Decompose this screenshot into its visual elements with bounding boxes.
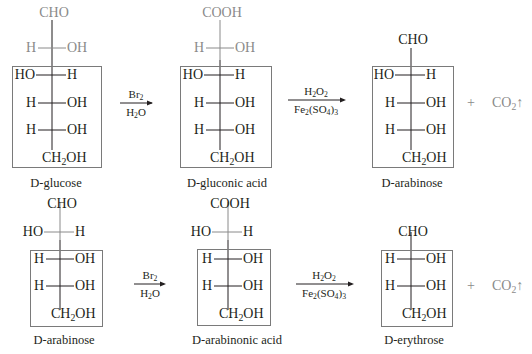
substituent-oh: OH — [243, 252, 263, 266]
substituent-oh: OH — [426, 252, 446, 266]
substituent-h: H — [235, 68, 245, 82]
substituent-h: H — [26, 123, 36, 137]
reagent-hydrogen-peroxide: H2O2 — [312, 270, 336, 281]
substituent-h: H — [67, 68, 77, 82]
substituent-h: H — [194, 96, 204, 110]
substituent-h: H — [202, 279, 212, 293]
aldehyde-group: CHO — [398, 33, 428, 47]
substituent-oh: OH — [426, 279, 446, 293]
substituent-h: H — [385, 123, 395, 137]
reagent-iron-sulfate: Fe2(SO4)3 — [302, 288, 346, 299]
molecule-label-d-erythrose: D-erythrose — [384, 334, 444, 347]
carboxyl-group: COOH — [210, 197, 250, 211]
carbon-dioxide-byproduct: CO2↑ — [492, 96, 523, 110]
reagent-bromine: Br2 — [143, 270, 158, 281]
substituent-h: H — [26, 41, 36, 55]
substituent-h: H — [34, 279, 44, 293]
substituent-oh: OH — [426, 123, 446, 137]
reagent-hydrogen-peroxide: H2O2 — [304, 86, 328, 97]
hydroxymethyl-group: CH2OH — [42, 151, 87, 165]
substituent-h: H — [34, 252, 44, 266]
molecule-label-d-glucose: D-glucose — [30, 177, 81, 190]
gas-evolution-arrow-icon: ↑ — [516, 95, 523, 110]
substituent-h: H — [202, 252, 212, 266]
molecule-label-d-arabinose: D-arabinose — [381, 177, 442, 190]
substituent-ho: HO — [15, 68, 35, 82]
molecule-label-d-arabinonic-acid: D-arabinonic acid — [192, 334, 282, 347]
reagent-water: H2O — [126, 107, 146, 118]
molecule-label-d-arabinose: D-arabinose — [33, 334, 94, 347]
reagent-iron-sulfate: Fe2(SO4)3 — [294, 104, 338, 115]
substituent-ho: HO — [191, 225, 211, 239]
substituent-h: H — [194, 41, 204, 55]
substituent-oh: OH — [235, 123, 255, 137]
substituent-oh: OH — [235, 41, 255, 55]
molecule-label-d-gluconic-acid: D-gluconic acid — [187, 177, 267, 190]
hydroxymethyl-group: CH2OH — [51, 307, 96, 321]
substituent-oh: OH — [426, 96, 446, 110]
substituent-oh: OH — [235, 96, 255, 110]
gas-evolution-arrow-icon: ↑ — [516, 278, 523, 293]
substituent-ho: HO — [23, 225, 43, 239]
substituent-oh: OH — [75, 279, 95, 293]
substituent-ho: HO — [374, 68, 394, 82]
aldehyde-group: CHO — [398, 225, 428, 239]
substituent-h: H — [385, 252, 395, 266]
aldehyde-group: CHO — [47, 197, 77, 211]
substituent-h: H — [26, 96, 36, 110]
hydroxymethyl-group: CH2OH — [402, 307, 447, 321]
plus-sign: + — [467, 279, 475, 293]
substituent-h: H — [426, 68, 436, 82]
carbon-dioxide-byproduct: CO2↑ — [492, 279, 523, 293]
substituent-oh: OH — [243, 279, 263, 293]
substituent-oh: OH — [67, 123, 87, 137]
reagent-water: H2O — [140, 288, 160, 299]
reagent-bromine: Br2 — [129, 89, 144, 100]
substituent-ho: HO — [183, 68, 203, 82]
substituent-h: H — [385, 279, 395, 293]
hydroxymethyl-group: CH2OH — [402, 151, 447, 165]
substituent-h: H — [75, 225, 85, 239]
substituent-oh: OH — [67, 96, 87, 110]
substituent-h: H — [194, 123, 204, 137]
aldehyde-group: CHO — [39, 6, 69, 20]
hydroxymethyl-group: CH2OH — [210, 151, 255, 165]
plus-sign: + — [467, 96, 475, 110]
substituent-oh: OH — [75, 252, 95, 266]
substituent-h: H — [385, 96, 395, 110]
substituent-h: H — [243, 225, 253, 239]
ruff-degradation-diagram: CHO H OH HO H H OH H OH CH2OH D-glucose … — [0, 0, 532, 354]
hydroxymethyl-group: CH2OH — [219, 307, 264, 321]
substituent-oh: OH — [67, 41, 87, 55]
carboxyl-group: COOH — [202, 6, 242, 20]
